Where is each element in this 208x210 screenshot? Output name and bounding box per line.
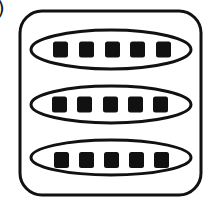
filled-square-item — [52, 97, 67, 113]
filled-square-item — [130, 42, 145, 58]
filled-square-item — [79, 152, 94, 168]
group-1 — [31, 30, 191, 69]
group-2 — [31, 86, 191, 123]
filled-square-item — [153, 97, 168, 113]
diagram-figure: ) — [0, 0, 208, 210]
filled-square-item — [54, 152, 69, 168]
panel-label-fragment: ) — [0, 0, 5, 20]
ellipse-groups — [31, 30, 191, 175]
filled-square-item — [156, 42, 171, 58]
filled-square-item — [105, 42, 120, 58]
filled-square-item — [103, 97, 118, 113]
filled-square-item — [154, 152, 169, 168]
filled-square-item — [77, 97, 92, 113]
filled-square-item — [79, 42, 94, 58]
filled-square-item — [128, 97, 143, 113]
filled-square-item — [53, 42, 68, 58]
diagram-canvas: ) — [0, 0, 208, 210]
filled-square-item — [104, 152, 119, 168]
filled-square-item — [129, 152, 144, 168]
group-3 — [31, 140, 191, 175]
